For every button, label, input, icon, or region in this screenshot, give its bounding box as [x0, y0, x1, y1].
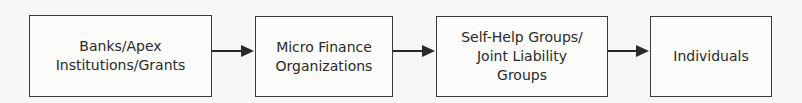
node-label: Micro Finance Organizations: [276, 38, 373, 76]
arrow-banks-to-mfo: [212, 50, 252, 52]
arrow-shg-to-individuals: [608, 50, 647, 52]
node-micro-finance-organizations: Micro Finance Organizations: [255, 16, 393, 97]
node-self-help-groups: Self-Help Groups/ Joint Liability Groups: [436, 16, 608, 97]
node-banks-apex-institutions-grants: Banks/Apex Institutions/Grants: [29, 15, 212, 97]
node-label: Banks/Apex Institutions/Grants: [56, 37, 186, 75]
node-individuals: Individuals: [650, 16, 772, 97]
node-label: Individuals: [673, 47, 748, 66]
arrow-mfo-to-shg: [393, 50, 433, 52]
node-label: Self-Help Groups/ Joint Liability Groups: [461, 28, 583, 85]
